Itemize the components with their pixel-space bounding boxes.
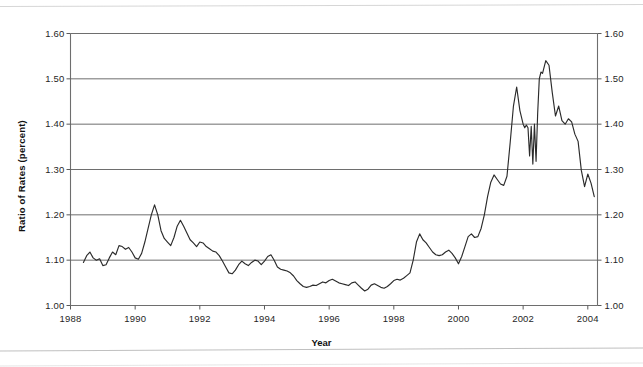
y-tick-label-right: 1.20 (605, 209, 624, 220)
x-tick-label: 2004 (568, 313, 608, 324)
x-tick-label: 2000 (438, 313, 478, 324)
y-tick-label-right: 1.00 (605, 300, 624, 311)
data-series-line-0 (83, 61, 594, 291)
x-tick-label: 1998 (374, 313, 414, 324)
y-tick-label-right: 1.40 (605, 118, 624, 129)
y-tick-label-left: 1.20 (31, 209, 65, 220)
y-tick-label-left: 1.10 (31, 254, 65, 265)
x-tick-label: 1994 (244, 313, 284, 324)
y-tick-label-left: 1.00 (31, 300, 65, 311)
y-tick-label-right: 1.10 (605, 254, 624, 265)
line-chart-figure: 1.001.001.101.101.201.201.301.301.401.40… (0, 0, 643, 367)
x-tick-label: 1996 (309, 313, 349, 324)
y-tick-label-left: 1.40 (31, 118, 65, 129)
x-tick-label: 2002 (503, 313, 543, 324)
y-tick-label-right: 1.50 (605, 73, 624, 84)
y-tick-label-left: 1.50 (31, 73, 65, 84)
x-tick-label: 1990 (115, 313, 155, 324)
y-tick-label-right: 1.60 (605, 28, 624, 39)
x-tick-label: 1988 (51, 313, 91, 324)
y-tick-label-left: 1.30 (31, 164, 65, 175)
y-tick-label-left: 1.60 (31, 28, 65, 39)
y-tick-label-right: 1.30 (605, 164, 624, 175)
x-tick-label: 1992 (180, 313, 220, 324)
y-axis-title: Ratio of Rates (percent) (16, 120, 27, 232)
x-axis-title: Year (0, 337, 643, 348)
